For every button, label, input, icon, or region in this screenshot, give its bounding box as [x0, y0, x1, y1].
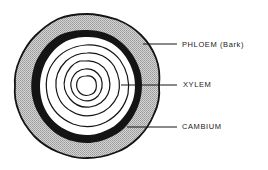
xylem-layer [40, 37, 135, 135]
cambium-label: CAMBIUM [182, 123, 222, 131]
phloem-label: PHLOEM (Bark) [182, 41, 244, 49]
xylem-label: XYLEM [183, 81, 211, 89]
trunk-cross-section-figure [0, 0, 268, 170]
